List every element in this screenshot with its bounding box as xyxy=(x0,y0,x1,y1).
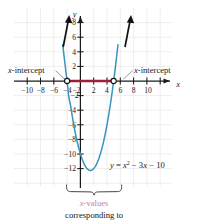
y-tick-label: −8 xyxy=(68,135,76,144)
y-tick-label: 8 xyxy=(72,18,76,27)
x-tick-label: 10 xyxy=(144,86,152,95)
left-branch-arrowhead xyxy=(65,15,72,23)
x-tick-label: −10 xyxy=(21,86,33,95)
interval-brace xyxy=(67,185,122,195)
x-tick-labels: −10 −8 −6 −4 −2 2 4 6 8 10 xyxy=(21,86,152,95)
x-intercept-label-left-rest: -intercept xyxy=(12,65,46,75)
x-tick-label: −6 xyxy=(50,86,58,95)
y-tick-label: 6 xyxy=(72,33,76,42)
y-axis-arrow xyxy=(78,16,83,23)
caption-line-1-rest: -values xyxy=(84,198,109,208)
x-intercept-label-right: x-intercept xyxy=(133,65,171,75)
x-intercept-label-right-rest: -intercept xyxy=(138,65,172,75)
x-tick-label: −8 xyxy=(37,86,45,95)
caption-line-1: x-values xyxy=(79,198,109,208)
y-tick-label: 2 xyxy=(72,62,76,71)
y-tick-label: −12 xyxy=(64,164,76,173)
y-tick-label: 4 xyxy=(72,48,76,57)
caption-line-2: corresponding to xyxy=(65,210,123,220)
x-axis-arrow xyxy=(164,79,171,84)
right-branch-arrow-shaft xyxy=(125,20,130,47)
x-intercept-label-left: x-intercept xyxy=(7,65,45,75)
left-branch-arrow-shaft xyxy=(63,20,68,47)
x-intercept-marker-left xyxy=(65,78,70,83)
parabola-graph: −10 −8 −6 −4 −2 2 4 6 8 10 8 6 4 2 −2 −4… xyxy=(0,0,201,224)
figure-container: −10 −8 −6 −4 −2 2 4 6 8 10 8 6 4 2 −2 −4… xyxy=(0,0,201,224)
x-tick-label: 8 xyxy=(132,86,136,95)
y-tick-label: −2 xyxy=(71,91,79,100)
y-axis-label: y xyxy=(72,10,77,19)
x-axis-label: x xyxy=(175,80,180,89)
right-branch-arrowhead xyxy=(127,15,134,23)
x-tick-label: 6 xyxy=(118,86,122,95)
x-tick-label: 2 xyxy=(92,86,96,95)
x-tick-label: 4 xyxy=(105,86,109,95)
x-intercept-marker-right xyxy=(111,78,116,83)
equation-label: y = x2 − 3x − 10 xyxy=(109,160,165,170)
y-tick-label: −10 xyxy=(64,150,76,159)
